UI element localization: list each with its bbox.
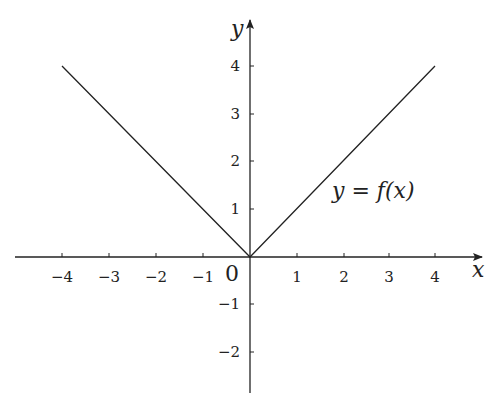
function-graph: −4 −3 −2 −1 1 2 3 4 4 3 2 1 −1 −2 0 x y …	[0, 0, 492, 393]
y-tick-labels: 4 3 2 1 −1 −2	[218, 57, 240, 361]
x-tick-labels: −4 −3 −2 −1 1 2 3 4	[51, 268, 440, 286]
function-label: y = f(x)	[331, 178, 415, 203]
function-curve	[62, 66, 435, 257]
svg-text:−2: −2	[218, 343, 240, 361]
svg-text:1: 1	[292, 268, 302, 286]
svg-text:3: 3	[384, 268, 394, 286]
y-axis-label: y	[230, 16, 244, 41]
svg-text:−2: −2	[145, 268, 167, 286]
svg-text:2: 2	[230, 152, 240, 170]
svg-text:−4: −4	[51, 268, 73, 286]
svg-text:2: 2	[339, 268, 349, 286]
origin-label: 0	[225, 261, 239, 286]
svg-text:1: 1	[230, 200, 240, 218]
svg-text:−1: −1	[218, 295, 240, 313]
svg-text:4: 4	[230, 57, 240, 75]
x-axis-label: x	[472, 257, 485, 282]
svg-text:4: 4	[430, 268, 440, 286]
svg-text:−3: −3	[98, 268, 120, 286]
svg-text:−1: −1	[192, 268, 214, 286]
svg-text:3: 3	[230, 105, 240, 123]
